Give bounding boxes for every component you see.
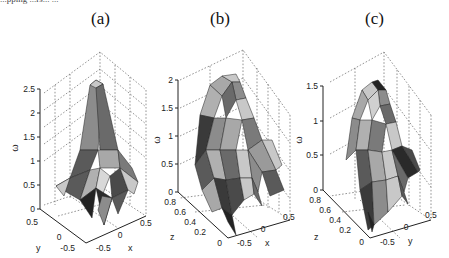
plot-c-xtick: -0.5 xyxy=(380,237,395,247)
plot-c-ytick: 0.4 xyxy=(329,215,341,225)
plot-b-xtick: 0 xyxy=(261,224,266,234)
plot-b-ztick: 0 xyxy=(168,187,173,197)
plot-b-ztick: 1.5 xyxy=(161,103,173,113)
plot-b-ytick: 0.2 xyxy=(194,227,206,237)
plot-b-xlabel: x xyxy=(265,238,270,248)
plot-b-ylabel: z xyxy=(170,232,175,242)
plot-b-ztick: 0.5 xyxy=(161,159,173,169)
plot-a-ztick: 1 xyxy=(30,156,35,166)
plot-a-ylabel: y xyxy=(36,243,41,253)
plot-a-ytick: 0.5 xyxy=(26,217,38,227)
plot-b-ztick: 1 xyxy=(168,131,173,141)
plot-a-ztick: 2 xyxy=(30,108,35,118)
plot-c-ytick: 0 xyxy=(359,237,364,247)
plot-b-ytick: 0.4 xyxy=(184,217,196,227)
plot-a-xtick: 0 xyxy=(118,230,123,240)
plot-a-surface xyxy=(56,80,138,225)
plot-a-ztick: 1.5 xyxy=(23,132,35,142)
plot-a-xtick: -0.5 xyxy=(96,243,111,253)
plot-a-ytick: -0.5 xyxy=(60,243,75,253)
plot-b-ytick: 0.6 xyxy=(174,207,186,217)
plot-a: 2.5 2 1.5 1 0.5 0 ω 0.5 0 -0.5 y -0.5 0 … xyxy=(10,52,152,253)
plot-a-xlabel: x xyxy=(128,243,133,253)
plot-c-ytick: 0.2 xyxy=(339,225,351,235)
plot-a-ztick: 2.5 xyxy=(23,84,35,94)
plot-c-ztick: 1.5 xyxy=(306,81,318,91)
plot-a-ztick: 0 xyxy=(30,204,35,214)
plot-c-xlabel: y xyxy=(408,236,413,246)
plot-b-ztick: 2 xyxy=(168,75,173,85)
plot-c-ytick: 0.8 xyxy=(309,195,321,205)
plot-b-ytick: 0 xyxy=(217,238,222,248)
plot-c-xtick: 0 xyxy=(404,222,409,232)
figure-canvas: 2.5 2 1.5 1 0.5 0 ω 0.5 0 -0.5 y -0.5 0 … xyxy=(0,0,449,258)
plot-c-ztick: 0.5 xyxy=(306,150,318,160)
plot-b-ytick: 0.8 xyxy=(164,197,176,207)
plot-a-xtick: 0.5 xyxy=(140,218,152,228)
plot-a-ztick: 0.5 xyxy=(23,180,35,190)
plot-c-xtick: 0.5 xyxy=(425,210,437,220)
plot-c-ztick: 1 xyxy=(313,116,318,126)
plot-b-zlabel: ω xyxy=(152,136,162,143)
plot-c-ztick: 0 xyxy=(313,185,318,195)
plot-b: 2 1.5 1 0.5 0 ω 0.8 0.6 0.4 0.2 0 z -0.5… xyxy=(152,50,295,248)
plot-a-ytick: 0 xyxy=(57,232,62,242)
plot-a-zlabel: ω xyxy=(10,144,20,151)
plot-c-zlabel: ω xyxy=(294,136,304,143)
plot-b-xtick: -0.5 xyxy=(237,238,252,248)
plot-c-ylabel: z xyxy=(314,232,319,242)
plot-b-surface xyxy=(195,74,284,235)
plot-c-ytick: 0.6 xyxy=(319,205,331,215)
plot-b-xtick: 0.5 xyxy=(283,212,295,222)
plot-c: 1.5 1 0.5 0 ω 0.8 0.6 0.4 0.2 0 z -0.5 0… xyxy=(294,52,437,247)
